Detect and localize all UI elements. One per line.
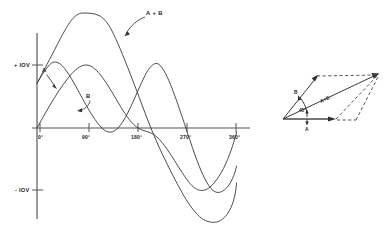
x-tick-label-0: 0° [38, 134, 43, 140]
y-axis-label-minus10: - IOV [15, 187, 30, 193]
x-tick-label-90: 90° [82, 134, 90, 140]
y-axis-label-plus10: + IOV [14, 62, 30, 68]
angle-arc-arrowhead [298, 95, 302, 101]
vector-label-a: A [305, 127, 309, 132]
curve-a-leader-line [47, 75, 55, 87]
parallelogram-dashed-right [336, 76, 377, 119]
vector-a-label-tick-arrowhead [305, 122, 308, 126]
waveform-plot: + IOV - IOV 0° 90° 180° 270° 360° A B A … [14, 10, 250, 222]
curve-label-a: A [42, 67, 47, 73]
curve-a-leader-arrow [52, 84, 57, 89]
vector-a-arrowhead [328, 116, 336, 121]
figure-canvas: + IOV - IOV 0° 90° 180° 270° 360° A B A … [0, 0, 392, 252]
curve-label-b: B [86, 93, 91, 99]
vector-diagram: B A+B 45° A [283, 73, 380, 132]
vector-sum-line [283, 75, 376, 119]
curve-a-plus-b [37, 13, 237, 222]
parallelogram-dashed-top [317, 75, 377, 76]
vector-label-sum: A+B [319, 95, 331, 104]
curve-label-a-plus-b: A + B [146, 10, 163, 16]
curve-b-leader-arrow [77, 108, 82, 112]
vector-label-angle: 45° [299, 108, 306, 113]
figure-svg: + IOV - IOV 0° 90° 180° 270° 360° A B A … [0, 0, 392, 252]
x-tick-label-180: 180° [131, 134, 142, 140]
curve-sum-leader-line [126, 17, 145, 34]
vector-label-b: B [294, 90, 298, 95]
